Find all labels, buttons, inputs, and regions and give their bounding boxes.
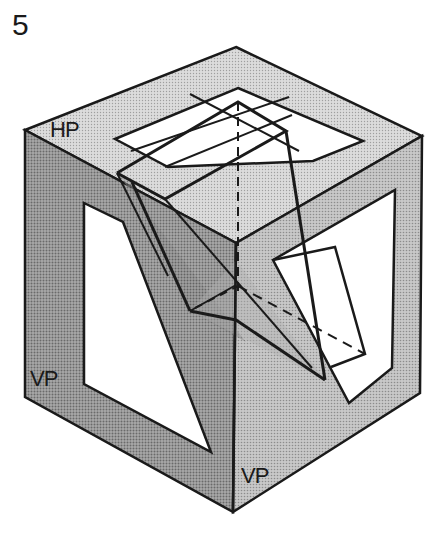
figure-number: 5	[12, 8, 29, 42]
hp-label: HP	[50, 117, 79, 143]
projection-cube-diagram	[0, 0, 436, 533]
vp-left-label: VP	[30, 366, 57, 392]
diagram-stage: 5 HP VP VP	[0, 0, 436, 533]
vp-right-label: VP	[241, 463, 268, 489]
